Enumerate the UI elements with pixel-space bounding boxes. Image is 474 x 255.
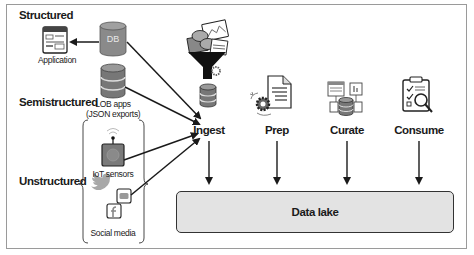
category-semistructured: Semistructured [19,96,98,108]
source-social-label: Social media [86,228,140,238]
facebook-icon [107,204,121,218]
stage-prep-label: Prep [254,124,300,136]
source-lob-apps-label: LOB apps [88,99,138,109]
arrow-iot-to-ingest [124,134,197,160]
data-lake-box: Data lake [176,191,454,233]
data-lake-label: Data lake [292,206,339,218]
category-structured: Structured [19,9,73,21]
source-iot-label: IoT sensors [89,169,137,179]
ingest-database-icon [200,84,216,107]
arrow-social-to-ingest [131,139,199,195]
clipboard-magnifier-icon [403,77,432,112]
iot-sensor-icon [102,129,124,167]
curate-database-icon [328,82,362,116]
stage-consume-label: Consume [392,124,446,136]
funnel-icon [187,20,229,79]
document-gear-icon [250,76,291,115]
stage-ingest-label: Ingest [186,124,232,136]
youtube-icon [117,189,131,203]
category-unstructured: Unstructured [19,175,86,187]
stage-curate-label: Curate [324,124,370,136]
source-application-label: Application [38,55,72,65]
lob-apps-database-icon [101,64,125,98]
source-lob-apps-sublabel: (JSON exports) [86,109,140,119]
db-label: DB [100,34,126,44]
application-icon [43,27,67,53]
